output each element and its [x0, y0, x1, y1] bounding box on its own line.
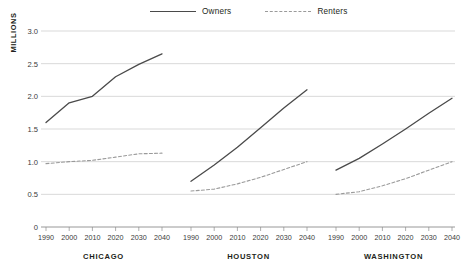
- panel-title-washington: WASHINGTON: [364, 252, 423, 261]
- x-axis-tick-label: 2020: [253, 233, 269, 242]
- series-line-owners: [46, 54, 162, 123]
- x-axis-tick-label: 2040: [444, 233, 460, 242]
- x-axis-tick-label: 2010: [84, 233, 100, 242]
- x-axis-tick-label: 2020: [108, 233, 124, 242]
- x-axis-tick-label: 2000: [351, 233, 367, 242]
- x-axis-tick-label: 2030: [421, 233, 437, 242]
- x-axis-tick-label: 2040: [299, 233, 315, 242]
- x-axis-tick-label: 2030: [276, 233, 292, 242]
- x-axis-tick-label: 1990: [38, 233, 54, 242]
- series-line-renters: [46, 153, 162, 163]
- panel-title-chicago: CHICAGO: [83, 252, 124, 261]
- x-axis-tick-label: 1990: [183, 233, 199, 242]
- line-chart: Owners Renters MILLIONS 00.51.01.52.02.5…: [0, 0, 472, 271]
- x-axis-tick-label: 2030: [131, 233, 147, 242]
- x-axis-tick-label: 2000: [206, 233, 222, 242]
- plot-area: [0, 0, 472, 271]
- x-axis-tick-label: 2010: [229, 233, 245, 242]
- x-axis-tick-label: 2000: [61, 233, 77, 242]
- x-axis-tick-label: 1990: [328, 233, 344, 242]
- panel-title-houston: HOUSTON: [227, 252, 270, 261]
- series-line-owners: [336, 98, 452, 170]
- series-line-renters: [191, 162, 307, 191]
- x-axis-tick-label: 2020: [398, 233, 414, 242]
- series-line-renters: [336, 162, 452, 195]
- x-axis-tick-label: 2040: [154, 233, 170, 242]
- x-axis-tick-label: 2010: [374, 233, 390, 242]
